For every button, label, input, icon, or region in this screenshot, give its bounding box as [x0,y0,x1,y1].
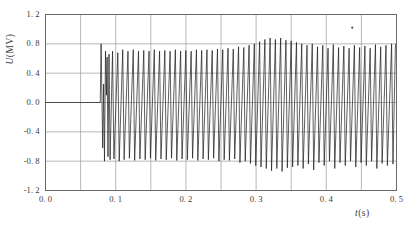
x-tick-label: 0. 1 [99,194,133,204]
x-tick-label: 0. 3 [239,194,273,204]
y-tick-label: -0. 4 [6,126,40,136]
chart-figure: U(MV) t(s) 1. 20. 80. 40. 0-0. 4-0. 8-1.… [0,0,410,237]
x-tick-label: 0. 0 [29,194,63,204]
image-artifacts [351,27,353,29]
y-tick-label: 1. 2 [6,9,40,19]
y-axis-label: U(MV) [5,26,15,72]
y-axis-symbol: U [5,57,15,64]
y-tick-label: 0. 8 [6,38,40,48]
x-tick-label: 0. 4 [309,194,343,204]
y-tick-label: 0. 0 [6,97,40,107]
x-tick-label: 0. 5 [380,194,410,204]
x-tick-label: 0. 2 [169,194,203,204]
data-series [46,38,396,171]
x-axis-unit: (s) [358,208,370,218]
y-tick-label: 0. 4 [6,68,40,78]
x-axis-label: t(s) [355,208,370,218]
y-tick-label: -0. 8 [6,156,40,166]
